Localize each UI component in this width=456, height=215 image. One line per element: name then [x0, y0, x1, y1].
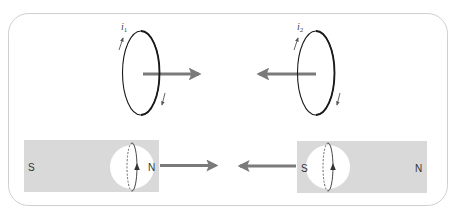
pole-label-n: N	[148, 162, 155, 173]
magnet-core-circle	[306, 145, 350, 189]
pole-label-n: N	[415, 163, 422, 174]
magnetic-interaction-diagram: i1 i2 S N S N	[0, 0, 456, 215]
pole-label-s: S	[301, 163, 308, 174]
pole-label-s: S	[28, 162, 35, 173]
